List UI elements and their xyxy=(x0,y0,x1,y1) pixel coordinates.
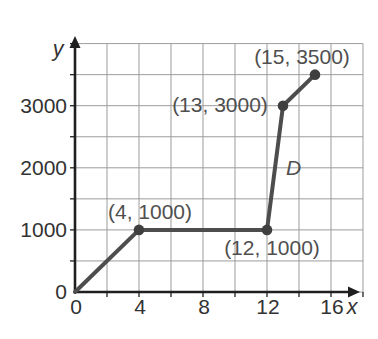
point-label: (13, 3000) xyxy=(172,93,268,116)
x-tick-label: 8 xyxy=(198,295,210,318)
y-axis-label: y xyxy=(51,37,65,61)
line-chart: 04812160100020003000yx(4, 1000)(12, 1000… xyxy=(0,0,378,339)
y-axis-arrow-icon xyxy=(70,36,81,48)
point-label: (15, 3500) xyxy=(254,45,350,68)
x-tick-label: 16 xyxy=(320,295,343,318)
y-tick-label: 3000 xyxy=(20,94,67,117)
data-point xyxy=(310,69,321,80)
data-point xyxy=(134,225,145,236)
point-label: (12, 1000) xyxy=(224,236,320,259)
x-axis-label: x xyxy=(346,295,359,319)
segment-label: D xyxy=(286,156,301,179)
x-tick-label: 0 xyxy=(70,295,82,318)
x-tick-label: 12 xyxy=(256,295,279,318)
y-tick-label: 2000 xyxy=(20,156,67,179)
data-point xyxy=(278,100,289,111)
x-tick-label: 4 xyxy=(134,295,146,318)
point-label: (4, 1000) xyxy=(108,200,192,223)
chart-figure: 04812160100020003000yx(4, 1000)(12, 1000… xyxy=(0,0,378,339)
y-tick-label: 0 xyxy=(55,280,67,303)
y-tick-label: 1000 xyxy=(20,218,67,241)
data-point xyxy=(262,225,273,236)
